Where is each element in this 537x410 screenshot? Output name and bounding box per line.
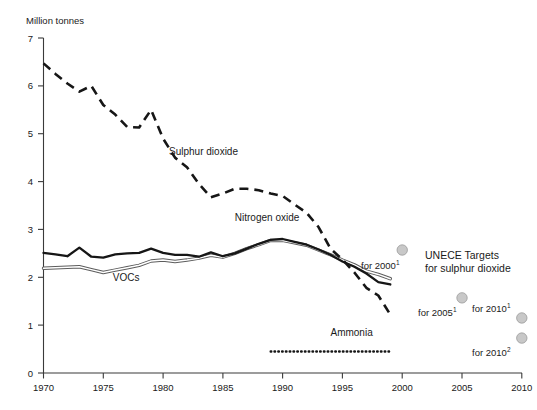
y-tick-group: 0 1 2 3 4 5 6 7 — [28, 33, 44, 379]
annotation-vocs: VOCs — [113, 272, 140, 283]
target-dot-2005[interactable] — [457, 293, 467, 303]
x-tick-label-1985: 1985 — [212, 382, 233, 393]
target-label-2000-footnote: 1 — [396, 259, 400, 266]
series-annotations: Sulphur dioxide Nitrogen oxide VOCs Ammo… — [113, 146, 373, 337]
target-label-2010-2-footnote: 2 — [507, 346, 511, 353]
target-label-2005: for 20051 — [418, 306, 457, 318]
target-label-2010-1: for 20101 — [472, 302, 511, 314]
target-dot-2010-1[interactable] — [517, 313, 527, 323]
y-tick-label-1: 1 — [28, 320, 33, 331]
annotation-ammonia: Ammonia — [330, 327, 373, 338]
y-tick-label-0: 0 — [28, 368, 33, 379]
target-dot-2000[interactable] — [397, 245, 407, 255]
annotation-sulphur-dioxide: Sulphur dioxide — [169, 146, 238, 157]
target-label-2005-text: for 2005 — [418, 307, 453, 318]
x-tick-label-1995: 1995 — [332, 382, 353, 393]
y-tick-label-6: 6 — [28, 80, 33, 91]
x-tick-label-2000: 2000 — [392, 382, 413, 393]
series-group — [44, 63, 391, 351]
target-label-2005-footnote: 1 — [453, 306, 457, 313]
series-line-nitrogen-oxide — [44, 239, 391, 284]
x-tick-label-1975: 1975 — [93, 382, 114, 393]
axes-group — [44, 38, 523, 373]
target-label-2010-1-footnote: 1 — [507, 302, 511, 309]
target-label-2010-2: for 20102 — [472, 346, 511, 358]
x-tick-label-1990: 1990 — [272, 382, 293, 393]
chart-canvas: Million tonnes 0 1 2 3 4 5 6 7 — [0, 0, 537, 410]
x-tick-group: 1970 1975 1980 1985 1990 1995 2000 2005 … — [33, 373, 532, 393]
y-tick-label-7: 7 — [28, 33, 33, 44]
target-label-2000-text: for 2000 — [361, 260, 396, 271]
legend-line-2: for sulphur dioxide — [425, 262, 511, 274]
y-tick-label-3: 3 — [28, 224, 33, 235]
target-label-2010-1-text: for 2010 — [472, 303, 507, 314]
target-label-2010-2-text: for 2010 — [472, 347, 507, 358]
y-tick-label-5: 5 — [28, 128, 33, 139]
x-tick-label-2005: 2005 — [451, 382, 472, 393]
emissions-chart: Million tonnes 0 1 2 3 4 5 6 7 — [0, 0, 537, 410]
legend-line-1: UNECE Targets — [425, 249, 499, 261]
y-tick-label-2: 2 — [28, 272, 33, 283]
y-axis-title: Million tonnes — [26, 15, 84, 26]
target-dot-2010-2[interactable] — [517, 333, 527, 343]
target-label-2000: for 20001 — [361, 259, 400, 271]
x-tick-label-1970: 1970 — [33, 382, 54, 393]
y-tick-label-4: 4 — [28, 176, 33, 187]
x-tick-label-2010: 2010 — [511, 382, 532, 393]
annotation-nitrogen-oxide: Nitrogen oxide — [235, 212, 300, 223]
series-line-sulphur-dioxide — [44, 63, 391, 314]
x-tick-label-1980: 1980 — [153, 382, 174, 393]
legend-block: UNECE Targets for sulphur dioxide — [425, 249, 511, 274]
